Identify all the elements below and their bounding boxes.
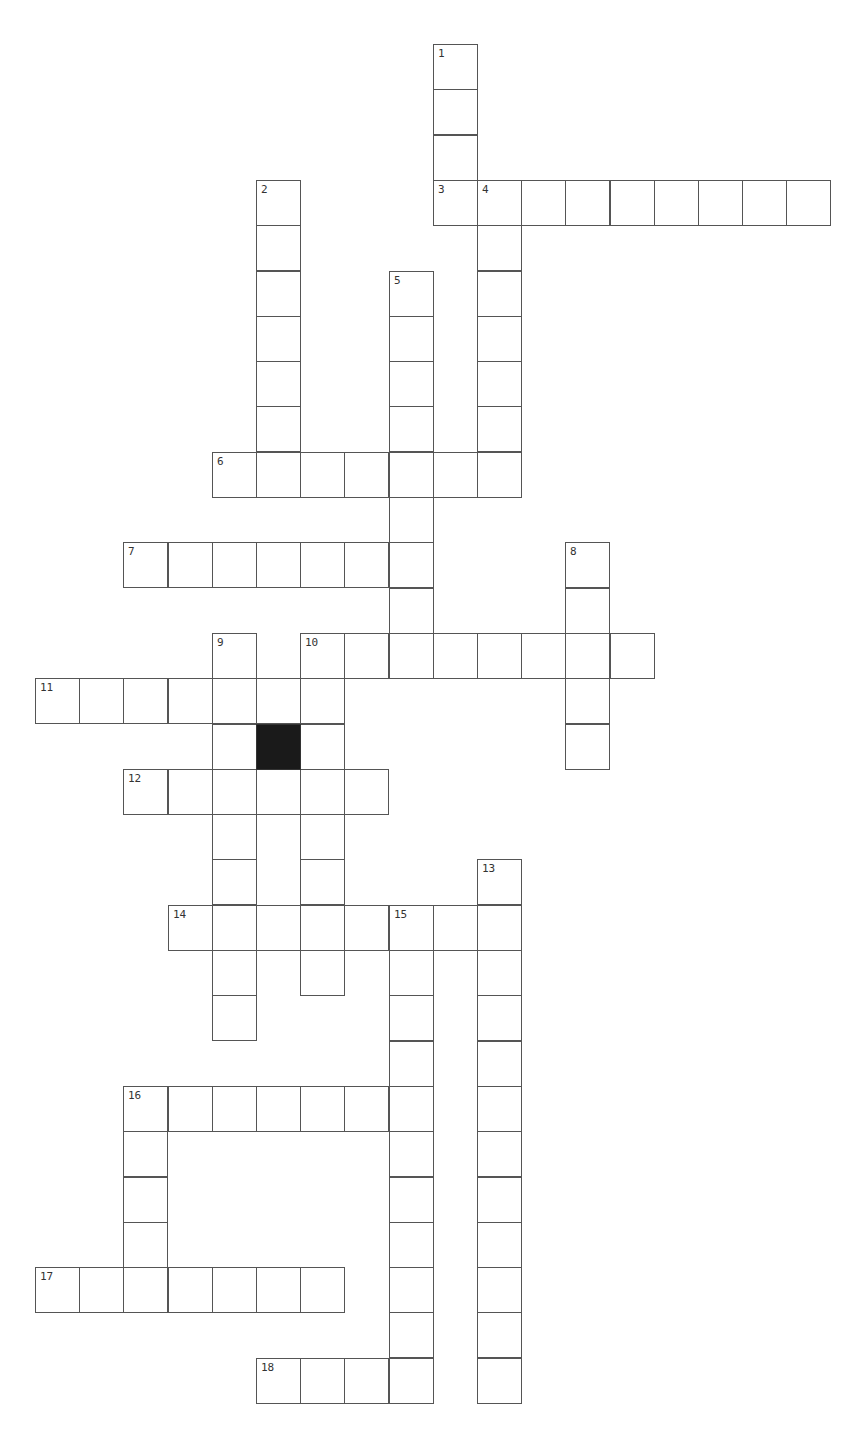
crossword-cell[interactable]	[477, 271, 522, 317]
crossword-cell[interactable]	[477, 1358, 522, 1404]
crossword-cell[interactable]: 14	[168, 905, 213, 951]
cell-input[interactable]	[478, 317, 521, 361]
crossword-cell[interactable]	[212, 1086, 257, 1132]
crossword-cell[interactable]	[389, 995, 434, 1041]
crossword-cell[interactable]	[565, 633, 610, 679]
cell-input[interactable]	[390, 362, 433, 406]
crossword-cell[interactable]	[123, 1177, 168, 1223]
cell-input[interactable]	[169, 1087, 212, 1131]
crossword-cell[interactable]	[300, 678, 345, 724]
crossword-cell[interactable]	[477, 905, 522, 951]
crossword-cell[interactable]	[300, 769, 345, 815]
cell-input[interactable]	[213, 543, 256, 587]
cell-input[interactable]	[257, 453, 300, 497]
crossword-cell[interactable]	[477, 1041, 522, 1087]
crossword-cell[interactable]: 12	[123, 769, 168, 815]
crossword-cell[interactable]	[389, 1222, 434, 1268]
crossword-cell[interactable]	[565, 678, 610, 724]
crossword-cell[interactable]	[477, 361, 522, 407]
crossword-cell[interactable]	[256, 225, 301, 271]
crossword-cell[interactable]	[389, 950, 434, 996]
crossword-cell[interactable]	[256, 406, 301, 452]
crossword-cell[interactable]: 8	[565, 542, 610, 588]
crossword-cell[interactable]	[212, 905, 257, 951]
cell-input[interactable]	[213, 996, 256, 1040]
crossword-cell[interactable]	[521, 633, 566, 679]
cell-input[interactable]	[390, 1359, 433, 1403]
cell-input[interactable]	[434, 136, 477, 180]
cell-input[interactable]	[522, 634, 565, 678]
crossword-cell[interactable]	[344, 633, 389, 679]
crossword-cell[interactable]	[212, 769, 257, 815]
crossword-cell[interactable]	[300, 1086, 345, 1132]
crossword-cell[interactable]	[389, 542, 434, 588]
crossword-cell[interactable]	[79, 1267, 124, 1313]
crossword-cell[interactable]	[389, 1131, 434, 1177]
crossword-cell[interactable]	[389, 1177, 434, 1223]
cell-input[interactable]	[478, 1178, 521, 1222]
crossword-cell[interactable]	[256, 905, 301, 951]
crossword-cell[interactable]	[212, 814, 257, 860]
cell-input[interactable]	[434, 634, 477, 678]
crossword-cell[interactable]	[477, 950, 522, 996]
cell-input[interactable]	[611, 634, 654, 678]
crossword-cell[interactable]	[256, 769, 301, 815]
crossword-cell[interactable]	[212, 859, 257, 905]
crossword-cell[interactable]	[389, 452, 434, 498]
crossword-cell[interactable]	[123, 678, 168, 724]
crossword-cell[interactable]	[344, 1358, 389, 1404]
crossword-cell[interactable]	[256, 1267, 301, 1313]
crossword-cell[interactable]: 18	[256, 1358, 301, 1404]
cell-input[interactable]	[390, 1042, 433, 1086]
cell-input[interactable]	[213, 860, 256, 904]
cell-input[interactable]	[478, 1087, 521, 1131]
cell-input[interactable]	[478, 1223, 521, 1267]
crossword-cell[interactable]: 10	[300, 633, 345, 679]
crossword-cell[interactable]	[565, 724, 610, 770]
cell-input[interactable]	[390, 634, 433, 678]
cell-input[interactable]	[257, 770, 300, 814]
cell-input[interactable]	[345, 906, 388, 950]
crossword-cell[interactable]	[389, 316, 434, 362]
cell-input[interactable]	[257, 906, 300, 950]
crossword-cell[interactable]	[212, 950, 257, 996]
cell-input[interactable]	[301, 906, 344, 950]
cell-input[interactable]	[566, 634, 609, 678]
crossword-cell[interactable]	[256, 678, 301, 724]
cell-input[interactable]	[743, 181, 786, 225]
cell-input[interactable]	[213, 1087, 256, 1131]
cell-input[interactable]	[478, 906, 521, 950]
crossword-cell[interactable]	[79, 678, 124, 724]
cell-input[interactable]	[390, 498, 433, 542]
crossword-cell[interactable]	[477, 1267, 522, 1313]
crossword-cell[interactable]	[300, 724, 345, 770]
cell-input[interactable]	[213, 725, 256, 769]
cell-input[interactable]	[478, 1042, 521, 1086]
crossword-cell[interactable]	[389, 1086, 434, 1132]
crossword-cell[interactable]	[477, 406, 522, 452]
crossword-cell[interactable]	[212, 724, 257, 770]
crossword-cell[interactable]: 6	[212, 452, 257, 498]
cell-input[interactable]	[124, 1268, 167, 1312]
cell-input[interactable]	[345, 1359, 388, 1403]
crossword-cell[interactable]	[344, 452, 389, 498]
cell-input[interactable]	[213, 951, 256, 995]
cell-input[interactable]	[478, 1359, 521, 1403]
cell-input[interactable]	[390, 317, 433, 361]
crossword-cell[interactable]: 17	[35, 1267, 80, 1313]
cell-input[interactable]	[478, 226, 521, 270]
crossword-cell[interactable]	[300, 542, 345, 588]
cell-input[interactable]	[390, 1132, 433, 1176]
crossword-cell[interactable]	[477, 995, 522, 1041]
cell-input[interactable]	[169, 1268, 212, 1312]
cell-input[interactable]	[169, 679, 212, 723]
crossword-cell[interactable]	[168, 769, 213, 815]
cell-input[interactable]	[257, 679, 300, 723]
crossword-cell[interactable]	[433, 452, 478, 498]
crossword-cell[interactable]	[168, 678, 213, 724]
cell-input[interactable]	[390, 453, 433, 497]
crossword-cell[interactable]	[389, 361, 434, 407]
cell-input[interactable]	[301, 679, 344, 723]
crossword-cell[interactable]	[256, 361, 301, 407]
crossword-cell[interactable]	[389, 406, 434, 452]
